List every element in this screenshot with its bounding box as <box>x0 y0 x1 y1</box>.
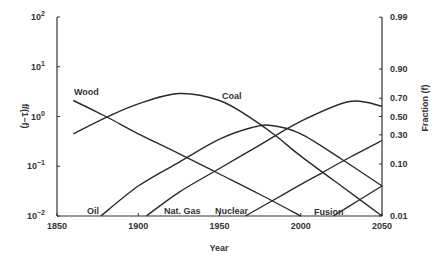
series-nuclear <box>246 141 383 217</box>
right-tick-label: 0.70 <box>390 93 408 103</box>
right-y-ticks: 0.990.900.700.500.300.100.01 <box>379 12 408 221</box>
x-tick-label: 1850 <box>47 221 67 231</box>
y-left-axis-title: f/(1−f) <box>20 104 30 129</box>
left-tick-label: 100 <box>31 110 45 122</box>
right-tick-label: 0.99 <box>390 12 408 22</box>
x-tick-label: 2050 <box>372 221 392 231</box>
right-tick-label: 0.30 <box>390 130 408 140</box>
label-wood: Wood <box>74 87 99 97</box>
label-natgas: Nat. Gas <box>164 206 201 216</box>
x-axis-title: Year <box>209 243 229 253</box>
y-right-axis-title: Fraction (f) <box>420 85 430 132</box>
label-fusion: Fusion <box>314 207 344 217</box>
label-nuclear: Nuclear <box>215 206 249 216</box>
left-tick-label: 101 <box>31 60 45 72</box>
series-oil <box>101 125 382 216</box>
right-tick-label: 0.90 <box>390 64 408 74</box>
right-tick-label: 0.50 <box>390 112 408 122</box>
right-tick-label: 0.01 <box>390 211 408 221</box>
series-lines <box>73 93 382 216</box>
x-tick-label: 1950 <box>209 221 229 231</box>
x-tick-label: 1900 <box>128 221 148 231</box>
left-y-ticks: 10210110010−110−2 <box>27 10 60 221</box>
substitution-chart: 10210110010−110−2 0.990.900.700.500.300.… <box>0 0 440 266</box>
left-tick-label: 102 <box>31 10 45 22</box>
right-tick-label: 0.10 <box>390 159 408 169</box>
left-tick-label: 10−1 <box>27 159 45 171</box>
x-tick-label: 2000 <box>291 221 311 231</box>
label-coal: Coal <box>222 91 242 101</box>
left-tick-label: 10−2 <box>27 209 45 221</box>
label-oil: Oil <box>87 206 99 216</box>
